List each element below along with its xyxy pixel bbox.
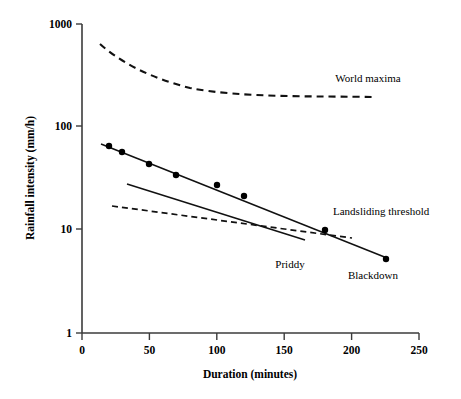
x-tick-label-150: 150 — [276, 344, 294, 356]
x-tick-label-200: 200 — [343, 344, 361, 356]
x-tick-label-250: 250 — [410, 344, 428, 356]
blackdown-point-1 — [106, 143, 112, 149]
rainfall-intensity-duration-chart: 1000 100 10 1 0 50 100 150 200 250 Durat… — [0, 0, 461, 399]
label-priddy: Priddy — [275, 258, 305, 270]
y-axis-title: Rainfall intensity (mm/h) — [24, 116, 37, 240]
blackdown-point-2 — [119, 149, 125, 155]
chart-figure: 1000 100 10 1 0 50 100 150 200 250 Durat… — [0, 0, 461, 399]
x-axis-title: Duration (minutes) — [203, 368, 297, 381]
blackdown-point-5 — [214, 182, 220, 188]
y-tick-labels: 1000 100 10 1 — [49, 18, 72, 339]
series-landsliding-threshold — [112, 206, 352, 238]
blackdown-point-8 — [383, 256, 389, 262]
x-tick-label-0: 0 — [79, 344, 85, 356]
series-blackdown — [101, 143, 389, 262]
blackdown-point-4 — [173, 172, 179, 178]
label-landsliding-threshold: Landsliding threshold — [333, 205, 430, 217]
blackdown-point-6 — [241, 193, 247, 199]
landsliding-threshold-line — [112, 206, 352, 238]
y-tick-label-10: 10 — [61, 223, 73, 235]
label-blackdown: Blackdown — [348, 269, 399, 281]
blackdown-trend-line — [101, 144, 387, 258]
x-tick-label-100: 100 — [208, 344, 226, 356]
series-world-maxima — [100, 44, 375, 97]
x-tick-label-50: 50 — [144, 344, 156, 356]
y-tick-label-1: 1 — [66, 327, 72, 339]
y-tick-label-1000: 1000 — [49, 18, 72, 30]
blackdown-point-3 — [146, 161, 152, 167]
blackdown-point-7 — [322, 227, 328, 233]
y-tick-label-100: 100 — [55, 120, 73, 132]
label-world-maxima: World maxima — [335, 72, 401, 84]
x-tick-labels: 0 50 100 150 200 250 — [79, 344, 428, 356]
world-maxima-curve — [100, 44, 375, 97]
